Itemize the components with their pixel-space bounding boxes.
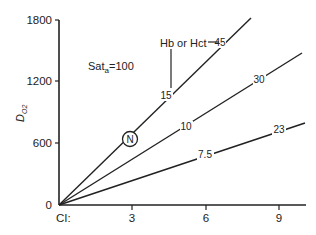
svg-text:DO2: DO2 <box>14 105 28 122</box>
y-tick-label: 1200 <box>26 75 52 87</box>
y-tick-label: 600 <box>33 137 52 149</box>
normal-point-label: N <box>126 134 133 145</box>
series-label-hb10: 10 <box>180 121 192 132</box>
series-label-hb7-5: 7.5 <box>198 149 212 160</box>
x-ticks: 3 6 9 <box>129 205 282 224</box>
series-label-hct23: 23 <box>273 124 285 135</box>
y-tick-label: 0 <box>46 199 52 211</box>
y-tick-label: 1800 <box>26 14 52 26</box>
line-chart: 1800 1200 600 0 3 6 9 CI: DO2 15 45 10 3… <box>0 0 316 235</box>
y-ticks: 1800 1200 600 0 <box>26 14 59 211</box>
x-tick-label: 6 <box>203 212 209 224</box>
x-tick-label: 9 <box>276 212 282 224</box>
hb-hct-annotation: Hb or Hct <box>160 37 206 49</box>
chart: 1800 1200 600 0 3 6 9 CI: DO2 15 45 10 3… <box>0 0 316 235</box>
x-tick-label: 3 <box>129 212 135 224</box>
series-line-hb7-5 <box>59 123 305 205</box>
series-label-hct30: 30 <box>253 74 265 85</box>
y-axis-label-main: D <box>14 114 26 122</box>
y-axis-label-sub: O2 <box>21 105 28 114</box>
sat-annotation: Sata=100 <box>88 60 134 75</box>
y-axis-label: DO2 <box>14 105 28 122</box>
x-axis-label: CI: <box>56 212 71 224</box>
series-label-hb15: 15 <box>160 90 172 101</box>
